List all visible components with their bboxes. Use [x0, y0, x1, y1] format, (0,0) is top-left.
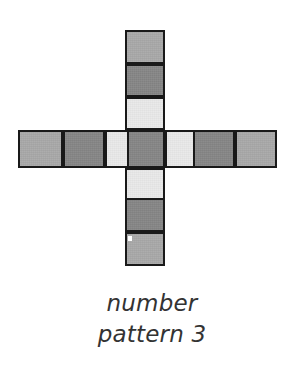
cell-up-2	[125, 64, 165, 97]
cross-diagram	[0, 0, 304, 285]
cell-down-2	[125, 198, 165, 232]
cell-left-3	[18, 130, 63, 168]
cell-left-2	[63, 130, 105, 168]
caption-line-2: pattern 3	[0, 319, 304, 350]
caption-line-1: number	[0, 288, 304, 319]
cell-right-3	[235, 130, 277, 168]
scan-speck	[128, 236, 132, 241]
cell-down-1	[125, 168, 165, 202]
figure-caption: number pattern 3	[0, 288, 304, 350]
cell-center	[127, 130, 165, 168]
cell-up-1	[125, 97, 165, 130]
cell-right-2	[193, 130, 235, 168]
figure-number-pattern-3: number pattern 3	[0, 0, 304, 373]
cell-up-3	[125, 30, 165, 64]
